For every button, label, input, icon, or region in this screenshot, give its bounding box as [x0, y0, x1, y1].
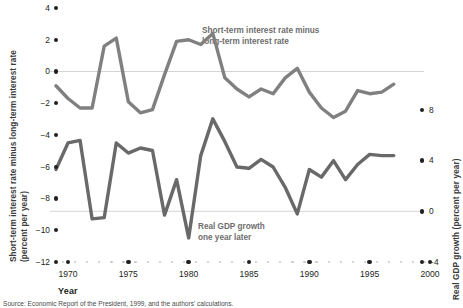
right-tick-label: −4	[429, 257, 453, 267]
x-tick-label: 2000	[410, 269, 450, 279]
left-tick-dot	[54, 196, 58, 200]
right-tick-label: 0	[429, 206, 453, 216]
left-tick-dot	[54, 69, 58, 73]
x-tick-label: 1970	[48, 269, 88, 279]
axis-dot-minor	[315, 261, 317, 263]
left-tick-label: −2	[26, 98, 50, 108]
x-tick-label: 1980	[169, 269, 209, 279]
axis-dot-minor	[183, 261, 185, 263]
axis-dot-minor	[352, 261, 354, 263]
axis-dot-minor	[134, 261, 136, 263]
axis-dot-minor	[364, 261, 366, 263]
axis-dot-minor	[340, 261, 342, 263]
x-tick-dot	[307, 260, 311, 264]
x-tick-dot	[367, 260, 371, 264]
axis-dot-minor	[159, 261, 161, 263]
x-tick-label: 1975	[108, 269, 148, 279]
left-tick-label: −6	[26, 162, 50, 172]
x-tick-label: 1990	[289, 269, 329, 279]
left-tick-label: 4	[26, 3, 50, 13]
right-tick-label: 8	[429, 105, 453, 115]
axis-dot-minor	[291, 261, 293, 263]
x-tick-label: 1995	[350, 269, 390, 279]
axis-dot-minor	[303, 261, 305, 263]
chart-canvas: Short-term interest rate minus long-term…	[0, 0, 463, 308]
left-tick-label: −8	[26, 193, 50, 203]
left-tick-label: −4	[26, 130, 50, 140]
x-tick-dot	[126, 260, 130, 264]
right-tick-dot	[420, 209, 424, 213]
left-tick-label: −10	[26, 225, 50, 235]
series-line-interest-spread	[56, 33, 394, 117]
axis-dot-minor	[328, 261, 330, 263]
axis-dot-minor	[376, 261, 378, 263]
axis-dot-minor	[195, 261, 197, 263]
left-tick-label: 0	[26, 66, 50, 76]
axis-dot-minor	[147, 261, 149, 263]
x-tick-label: 1985	[229, 269, 269, 279]
left-tick-label: 2	[26, 35, 50, 45]
x-tick-dot	[186, 260, 190, 264]
right-tick-label: 4	[429, 155, 453, 165]
left-tick-label: −12	[26, 257, 50, 267]
axis-dot-minor	[110, 261, 112, 263]
axis-dot-minor	[122, 261, 124, 263]
series-line-gdp-growth	[56, 119, 394, 238]
axis-dot-minor	[171, 261, 173, 263]
